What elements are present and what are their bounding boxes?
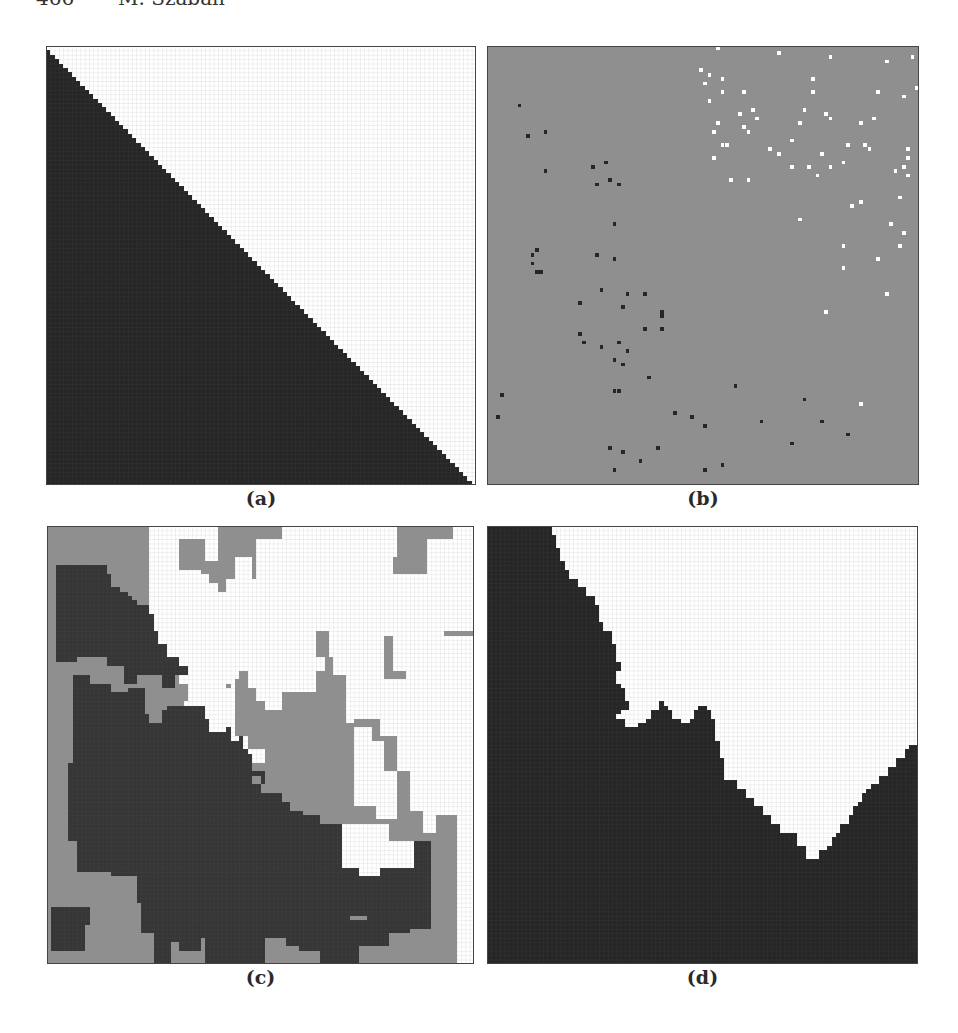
panel-c-three-state-regions [47, 526, 474, 964]
caption-d: (d) [673, 966, 733, 988]
caption-a: (a) [231, 487, 291, 509]
page-number: 466 [36, 0, 74, 10]
panel-d-two-state-boundary [487, 526, 918, 964]
panel-b-scattered-cells [487, 46, 919, 485]
running-author: M. Szaban [118, 0, 225, 10]
running-header: 466 M. Szaban [0, 0, 958, 10]
caption-b: (b) [673, 487, 733, 509]
caption-c: (c) [231, 966, 291, 988]
panel-a-diagonal-split [46, 46, 476, 485]
